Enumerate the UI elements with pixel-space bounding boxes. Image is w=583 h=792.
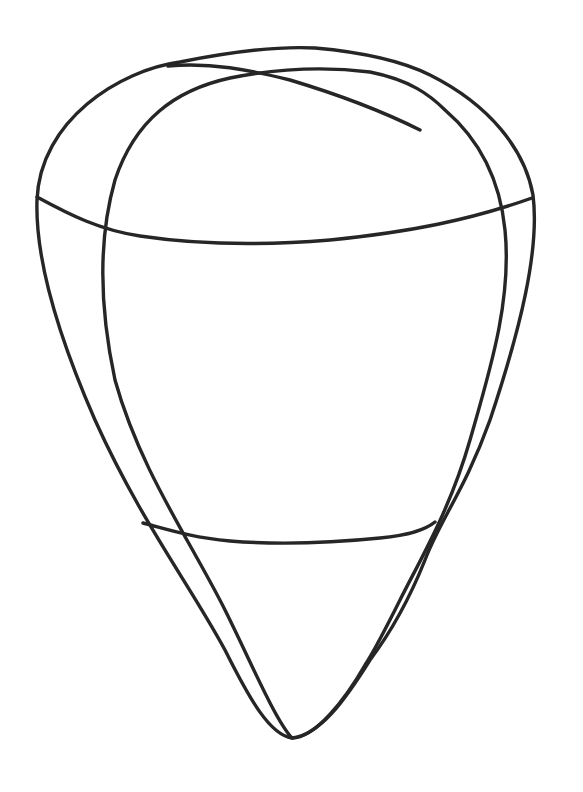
- outer-outline: [37, 48, 535, 738]
- inner-outline: [103, 69, 506, 738]
- teardrop-sketch: [0, 0, 583, 792]
- upper-band: [37, 197, 532, 243]
